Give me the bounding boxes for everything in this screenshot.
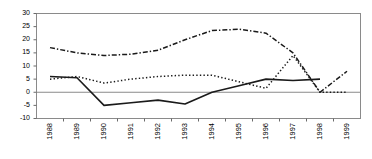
y-axis-tick-label: 25 (8, 22, 30, 30)
x-axis-tick-label: 1998 (316, 123, 324, 140)
x-axis-tick-label: 1994 (208, 123, 216, 140)
y-axis-tick-label: 5 (8, 75, 30, 83)
x-axis-tick-label: 1991 (127, 123, 135, 140)
plot-frame (37, 14, 361, 119)
y-axis-tick-label: 20 (8, 35, 30, 43)
y-axis-tick-label: 15 (8, 48, 30, 56)
x-axis-tick-label: 1993 (181, 123, 189, 140)
x-axis-tick-label: 1992 (154, 123, 162, 140)
series-dotted (50, 56, 347, 93)
y-axis-tick-label: -10 (8, 114, 30, 122)
x-axis-tick-label: 1996 (262, 123, 270, 140)
x-axis-tick-label: 1990 (100, 123, 108, 140)
y-axis-tick-label: 30 (8, 9, 30, 17)
x-axis-tick-label: 1995 (235, 123, 243, 140)
x-axis-tick-label: 1999 (343, 123, 351, 140)
y-axis-tick-label: -5 (8, 101, 30, 109)
x-axis-tick-label: 1989 (73, 123, 81, 140)
y-axis-tick-label: 0 (8, 88, 30, 96)
x-axis-tick-label: 1997 (289, 123, 297, 140)
x-axis-tick-label: 1988 (46, 123, 54, 140)
line-chart: 302520151050-5-1019881989199019911992199… (0, 0, 372, 159)
series-dash-dot (50, 29, 347, 92)
series-solid (50, 77, 320, 106)
y-axis-tick-label: 10 (8, 62, 30, 70)
